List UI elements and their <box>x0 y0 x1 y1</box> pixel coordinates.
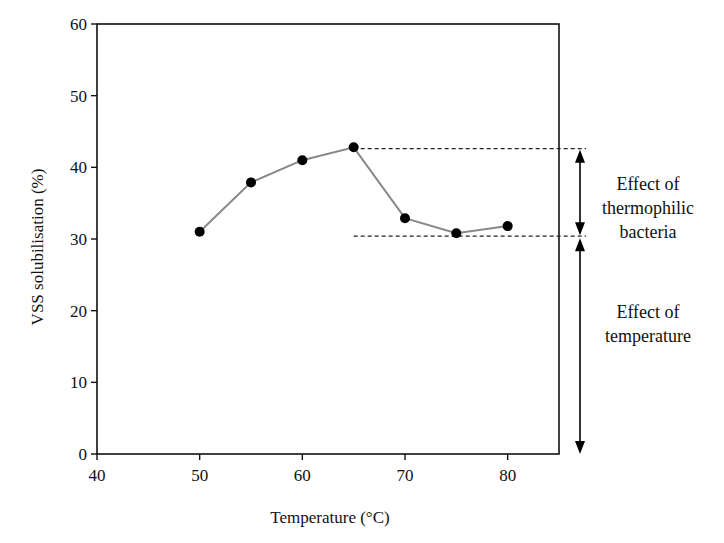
y-axis-title: VSS solubilisation (%) <box>28 169 47 326</box>
annotation-temperature: Effect oftemperature <box>605 302 691 346</box>
arrow-down-icon <box>575 222 585 235</box>
data-point-marker <box>400 213 410 223</box>
annotation-line: Effect of <box>616 174 679 194</box>
series-line <box>200 147 508 233</box>
y-tick-label: 30 <box>70 230 87 249</box>
x-axis-title: Temperature (°C) <box>270 508 389 527</box>
annotation-line: bacteria <box>620 222 677 242</box>
y-tick-label: 50 <box>70 87 87 106</box>
data-point-marker <box>503 221 513 231</box>
x-tick-label: 70 <box>397 466 414 485</box>
arrow-up-icon <box>575 150 585 163</box>
annotation-line: temperature <box>605 326 691 346</box>
annotation-line: Effect of <box>616 302 679 322</box>
x-tick-label: 80 <box>499 466 516 485</box>
annotation-line: thermophilic <box>602 198 694 218</box>
x-axis-ticks: 4050607080 <box>89 454 517 485</box>
arrow-down-icon <box>575 441 585 454</box>
y-tick-label: 20 <box>70 302 87 321</box>
data-point-marker <box>246 177 256 187</box>
data-point-marker <box>451 228 461 238</box>
data-point-marker <box>297 155 307 165</box>
x-tick-label: 40 <box>89 466 106 485</box>
y-tick-label: 10 <box>70 373 87 392</box>
data-series <box>195 142 513 238</box>
y-tick-label: 60 <box>70 15 87 34</box>
annotation-thermophilic-bacteria: Effect ofthermophilicbacteria <box>602 174 694 242</box>
data-point-marker <box>195 227 205 237</box>
reference-lines <box>354 149 586 236</box>
annotation-arrows <box>575 150 585 454</box>
data-point-marker <box>349 142 359 152</box>
y-tick-label: 40 <box>70 158 87 177</box>
x-tick-label: 60 <box>294 466 311 485</box>
x-tick-label: 50 <box>191 466 208 485</box>
arrow-up-icon <box>575 238 585 251</box>
chart: 0102030405060 4050607080 VSS solubilisat… <box>0 0 724 543</box>
plot-frame <box>97 24 559 454</box>
y-tick-label: 0 <box>79 445 88 464</box>
y-axis-ticks: 0102030405060 <box>70 15 97 464</box>
